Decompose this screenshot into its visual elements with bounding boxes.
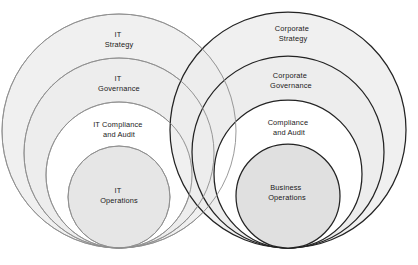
venn-diagram-canvas: IT Strategy IT Governance IT Compliance … [0, 0, 418, 265]
group-corporate: Corporate Strategy Corporate Governance … [170, 12, 406, 248]
ring-it-operations[interactable]: IT Operations [68, 146, 170, 248]
ring-business-operations-label: Business Operations [268, 183, 306, 202]
ring-compliance-and-audit-label: Compliance and Audit [268, 118, 311, 137]
ring-corporate-strategy-label: Corporate Strategy [275, 24, 311, 43]
ring-business-operations[interactable]: Business Operations [236, 144, 340, 248]
ring-corporate-governance-label: Corporate Governance [270, 71, 312, 90]
venn-diagram-svg: IT Strategy IT Governance IT Compliance … [0, 0, 418, 265]
